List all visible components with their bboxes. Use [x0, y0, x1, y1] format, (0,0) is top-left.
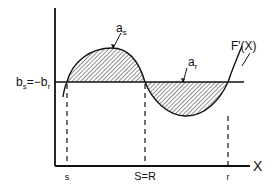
area-negative-hatch	[145, 82, 228, 116]
pointer-f-prime	[242, 53, 250, 66]
tick-label-s: s	[65, 172, 70, 182]
label-x-axis: X	[253, 158, 263, 174]
label-a-r: ar	[188, 55, 198, 71]
label-f-prime: F'(X)	[231, 39, 257, 53]
label-a-s: as	[116, 21, 127, 37]
tick-label-r: r	[227, 172, 230, 182]
diagram-canvas: as ar F'(X) bs=−br X s S=R r	[0, 0, 275, 185]
tick-label-S-equals-R: S=R	[134, 170, 156, 182]
area-positive-hatch	[67, 48, 145, 82]
label-b-level: bs=−br	[16, 75, 50, 91]
